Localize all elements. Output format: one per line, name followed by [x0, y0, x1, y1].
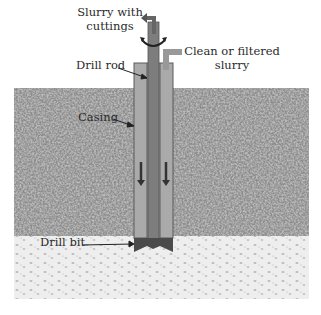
drill-rod: [148, 22, 159, 240]
slurry-outlet-arrow-icon: [141, 13, 154, 34]
label-slurry-in-1: Clean or filtered: [184, 44, 280, 58]
slurry-inlet-pipe: [166, 52, 182, 70]
label-drill-rod: Drill rod: [76, 58, 126, 72]
label-drill-bit: Drill bit: [40, 235, 85, 249]
drilling-diagram: Slurry with cuttings Clean or filtered s…: [0, 0, 321, 315]
label-casing: Casing: [78, 110, 119, 124]
label-slurry-out-1: Slurry with: [77, 5, 143, 19]
label-slurry-out-2: cuttings: [86, 19, 134, 33]
label-slurry-in-2: slurry: [215, 58, 250, 72]
